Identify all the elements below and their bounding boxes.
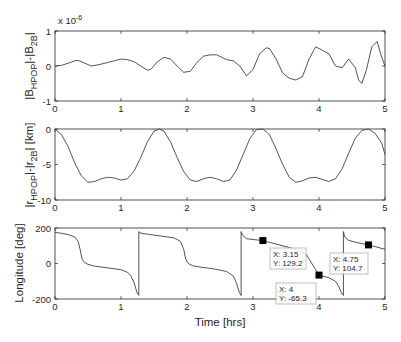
x-tick-label: 5 [382, 103, 387, 114]
datatip-y: Y: 129.2 [273, 259, 303, 268]
x-tick-label: 3 [250, 202, 255, 213]
datatip-y: Y: -65.3 [279, 294, 307, 303]
y-tick-label: -5 [43, 159, 51, 170]
x-tick-label: 2 [184, 301, 189, 312]
y-tick-label: -200 [32, 294, 51, 305]
datatip-y: Y: 104.7 [333, 264, 363, 273]
x-tick-label: 2 [184, 103, 189, 114]
x-tick-label: 2 [184, 202, 189, 213]
axes-b-field: 01234510-1 x 10-6 |BHPOP|-|B2B| [23, 14, 388, 114]
x-tick-label: 4 [316, 103, 321, 114]
y-tick-label: -1 [43, 96, 51, 107]
y-tick-label: 0 [46, 61, 51, 72]
x-axis-label-time: Time [hrs] [195, 316, 246, 328]
y-tick-label: 200 [35, 223, 51, 234]
y-tick-label: 1 [46, 26, 51, 37]
x-tick-label: 4 [316, 202, 321, 213]
x-tick-label: 0 [52, 103, 57, 114]
axes-r-diff: 0123450-5-10 |rHPOP|-|r2B| [km] [23, 123, 388, 213]
x-tick-label: 1 [118, 301, 123, 312]
x-tick-label: 5 [382, 202, 387, 213]
axes-longitude: 0123452000-200 Longitude [deg] Time [hrs… [13, 223, 388, 329]
x-tick-label: 4 [316, 301, 321, 312]
datatip-marker[interactable] [259, 237, 266, 244]
x-tick-label: 0 [52, 202, 57, 213]
x-tick-label: 3 [250, 301, 255, 312]
y-axis-label-r: |rHPOP|-|r2B| [km] [23, 123, 39, 208]
y-tick-label: 0 [46, 258, 51, 269]
y-axis-label-longitude: Longitude [deg] [13, 223, 25, 302]
datatip-marker[interactable] [316, 272, 323, 279]
y-axis-label-b: |BHPOP|-|B2B| [23, 32, 39, 100]
datatip-x: X: 3.15 [273, 250, 299, 259]
x-tick-label: 5 [382, 301, 387, 312]
x-tick-label: 0 [52, 301, 57, 312]
x-tick-label: 1 [118, 103, 123, 114]
x-tick-label: 3 [250, 103, 255, 114]
datatip-x: X: 4 [279, 285, 294, 294]
datatip-x: X: 4.75 [333, 255, 359, 264]
x-tick-label: 1 [118, 202, 123, 213]
y-tick-label: -10 [37, 195, 51, 206]
datatip-marker[interactable] [365, 241, 372, 248]
y-tick-label: 0 [46, 124, 51, 135]
figure: 01234510-1 x 10-6 |BHPOP|-|B2B| 0123450-… [0, 0, 401, 342]
exponent-label: x 10-6 [58, 14, 82, 26]
